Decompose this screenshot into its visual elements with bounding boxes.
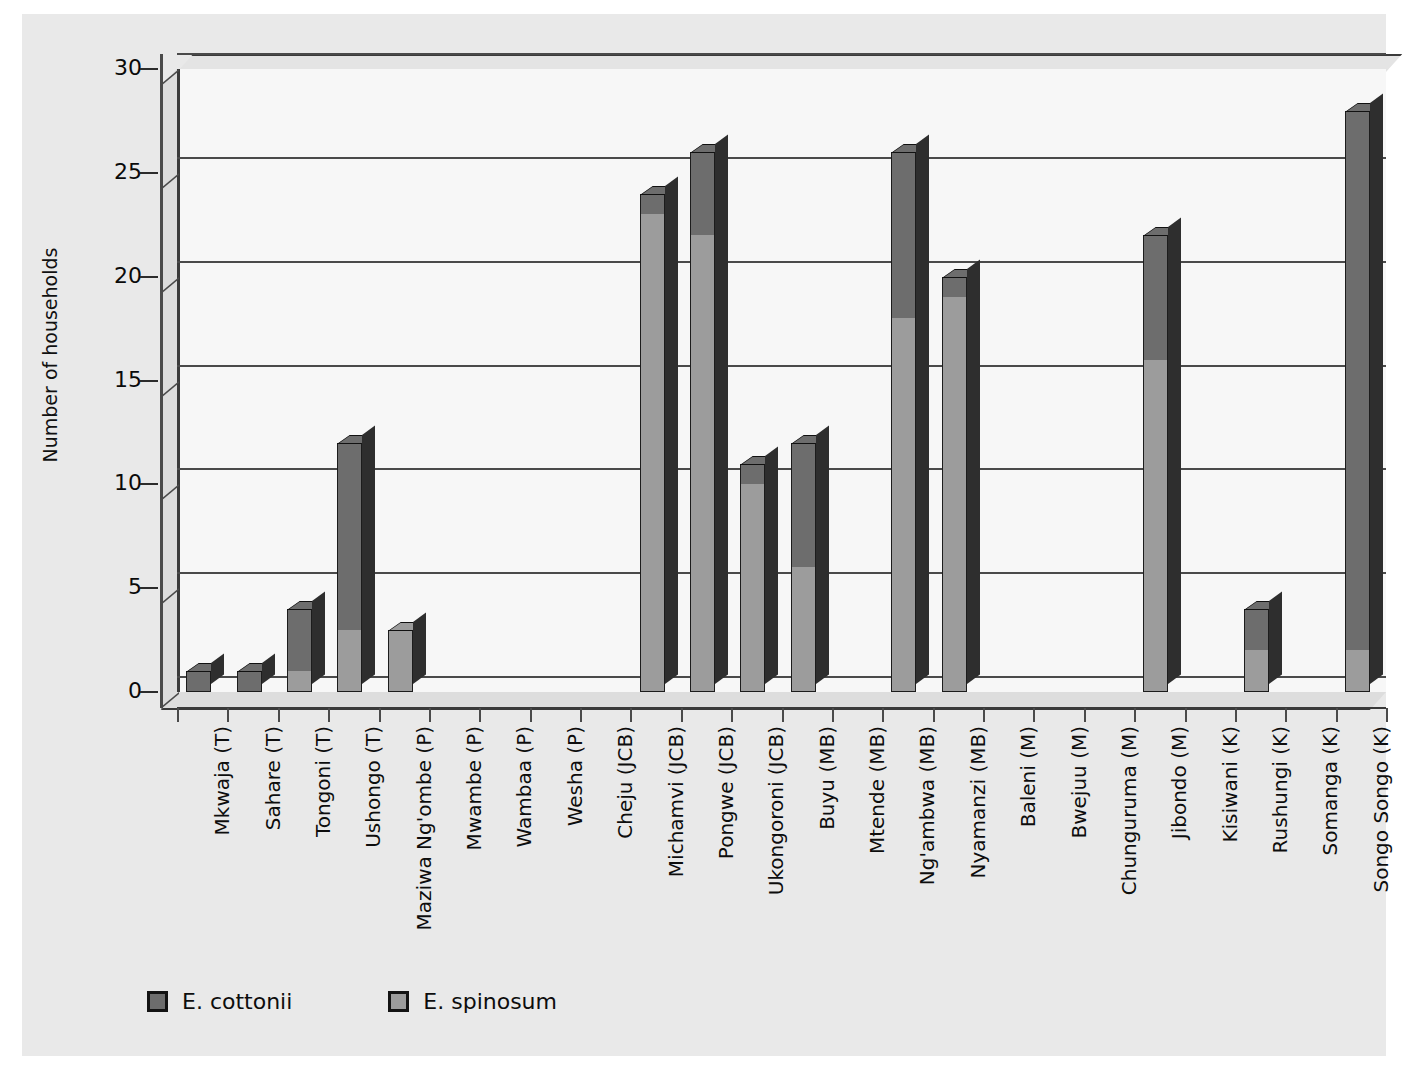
x-tick-mark [177, 708, 179, 722]
stacked-bar[interactable] [388, 630, 413, 692]
bar-side-face [211, 654, 224, 684]
stacked-bar[interactable] [640, 194, 665, 692]
stacked-bar[interactable] [287, 609, 312, 692]
x-tick-mark [983, 708, 985, 722]
stacked-bar[interactable] [1345, 111, 1370, 692]
y-tick-label: 10 [52, 470, 142, 495]
x-tick-mark [429, 708, 431, 722]
stacked-bar[interactable] [237, 671, 262, 692]
bar-series-container [177, 54, 1386, 708]
stacked-bar[interactable] [942, 277, 967, 692]
bar-segment-cottonii[interactable] [740, 464, 765, 485]
bar-side-face [765, 446, 778, 684]
x-tick-mark [681, 708, 683, 722]
bar-segment-spinosum[interactable] [740, 484, 765, 692]
x-tick-mark [580, 708, 582, 722]
x-tick-mark [1084, 708, 1086, 722]
y-tick-label: 5 [52, 574, 142, 599]
stacked-bar[interactable] [186, 671, 211, 692]
bar-segment-cottonii[interactable] [891, 152, 916, 318]
stacked-bar[interactable] [337, 443, 362, 692]
y-tick-mark [140, 691, 158, 693]
bar-side-face [665, 176, 678, 684]
legend-swatch [147, 991, 168, 1012]
x-tick-mark [782, 708, 784, 722]
x-axis-label: Mwambe (P) [462, 726, 486, 850]
legend-label: E. spinosum [423, 989, 557, 1014]
x-tick-mark [227, 708, 229, 722]
chart-legend: E. cottoniiE. spinosum [147, 989, 557, 1014]
x-axis-label: Maziwa Ng'ombe (P) [412, 726, 436, 930]
x-tick-mark [882, 708, 884, 722]
bar-segment-cottonii[interactable] [1244, 609, 1269, 651]
x-axis-label: Chunguruma (M) [1117, 726, 1141, 895]
chart-canvas: Number of households 051015202530 Mkwaja… [22, 14, 1386, 1056]
x-axis-label: Songo Songo (K) [1369, 726, 1393, 893]
stacked-bar[interactable] [690, 152, 715, 692]
y-tick-mark [140, 276, 158, 278]
stacked-bar[interactable] [1143, 235, 1168, 692]
y-axis-spine [160, 54, 163, 708]
stacked-bar[interactable] [891, 152, 916, 692]
bar-segment-cottonii[interactable] [1345, 111, 1370, 651]
bar-segment-cottonii[interactable] [186, 671, 211, 692]
bar-segment-cottonii[interactable] [791, 443, 816, 568]
x-axis-label: Ushongo (T) [361, 726, 385, 848]
bar-segment-spinosum[interactable] [1345, 650, 1370, 692]
y-tick-label: 20 [52, 263, 142, 288]
bar-segment-spinosum[interactable] [690, 235, 715, 692]
bar-segment-spinosum[interactable] [337, 630, 362, 692]
x-tick-mark [832, 708, 834, 722]
x-tick-mark [1386, 708, 1388, 722]
bar-segment-cottonii[interactable] [287, 609, 312, 671]
x-tick-mark [1033, 708, 1035, 722]
y-tick-label: 25 [52, 159, 142, 184]
bar-side-face [362, 425, 375, 684]
stacked-bar[interactable] [1244, 609, 1269, 692]
x-axis-label: Buyu (MB) [815, 726, 839, 830]
x-axis-labels: Mkwaja (T)Sahare (T)Tongoni (T)Ushongo (… [177, 726, 1386, 976]
legend-item[interactable]: E. spinosum [388, 989, 557, 1014]
bar-side-face [715, 135, 728, 684]
x-axis-label: Wesha (P) [563, 726, 587, 826]
x-tick-mark [933, 708, 935, 722]
bar-segment-spinosum[interactable] [942, 297, 967, 692]
x-axis-label: Rushungi (K) [1268, 726, 1292, 853]
bar-segment-cottonii[interactable] [942, 277, 967, 298]
bar-segment-cottonii[interactable] [337, 443, 362, 630]
x-tick-mark [731, 708, 733, 722]
x-axis-label: Baleni (M) [1016, 726, 1040, 827]
y-tick-label: 0 [52, 678, 142, 703]
bar-segment-cottonii[interactable] [690, 152, 715, 235]
bar-segment-spinosum[interactable] [791, 567, 816, 692]
x-tick-mark [328, 708, 330, 722]
bar-segment-spinosum[interactable] [1244, 650, 1269, 692]
x-tick-mark [630, 708, 632, 722]
y-tick-label: 30 [52, 55, 142, 80]
bar-side-face [916, 135, 929, 684]
bar-side-face [1269, 591, 1282, 684]
x-axis-label: Nyamanzi (MB) [966, 726, 990, 878]
x-axis-label: Mtende (MB) [865, 726, 889, 854]
bar-segment-spinosum[interactable] [1143, 360, 1168, 692]
bar-segment-spinosum[interactable] [388, 630, 413, 692]
x-axis-label: Ng'ambwa (MB) [915, 726, 939, 885]
bar-segment-spinosum[interactable] [287, 671, 312, 692]
bar-segment-cottonii[interactable] [237, 671, 262, 692]
bar-side-face [1168, 218, 1181, 684]
x-axis-label: Mkwaja (T) [210, 726, 234, 835]
bar-side-face [413, 612, 426, 684]
bar-segment-cottonii[interactable] [1143, 235, 1168, 360]
x-axis-label: Somanga (K) [1318, 726, 1342, 855]
legend-swatch [388, 991, 409, 1012]
bar-segment-cottonii[interactable] [640, 194, 665, 215]
stacked-bar[interactable] [740, 464, 765, 692]
bar-side-face [967, 259, 980, 684]
x-axis-label: Jibondo (M) [1167, 726, 1191, 839]
bar-segment-spinosum[interactable] [891, 318, 916, 692]
legend-item[interactable]: E. cottonii [147, 989, 292, 1014]
bar-segment-spinosum[interactable] [640, 214, 665, 692]
x-axis-label: Kisiwani (K) [1218, 726, 1242, 843]
stacked-bar[interactable] [791, 443, 816, 692]
x-tick-mark [1185, 708, 1187, 722]
